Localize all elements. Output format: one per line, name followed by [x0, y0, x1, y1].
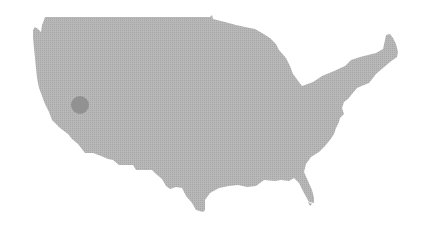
map-container: [0, 0, 422, 230]
location-marker[interactable]: [71, 96, 89, 114]
us-map: [0, 0, 422, 230]
us-landmass: [33, 15, 398, 212]
florida-keys: [308, 202, 312, 206]
